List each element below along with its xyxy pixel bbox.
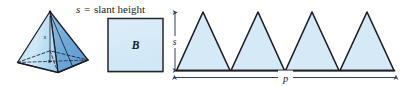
lateral-triangle-2 [231,12,285,71]
perimeter-dimension-label: p [282,73,288,84]
caption-variable: s [76,3,80,15]
lateral-triangle-3 [286,12,340,71]
slant-height-caption: s = slant height [76,3,145,15]
square-pyramid-solid: s [18,11,89,73]
slant-height-dimension-label: s [173,37,177,47]
lateral-triangles-group [177,12,395,71]
pyramid-slant-label: s [44,33,47,41]
slant-height-dimension: s [169,13,180,71]
geometry-figure-surface-area-pyramid: s s = slant height B s [0,0,404,86]
perimeter-dimension: p [175,71,397,84]
figure-canvas: s s = slant height B s [0,0,404,86]
lateral-triangle-1 [177,12,231,71]
base-square-group: B [108,19,163,73]
caption-definition: slant height [94,3,145,15]
lateral-triangle-4 [340,12,394,71]
pyramid-apex-point [49,11,51,13]
base-square-label: B [131,39,140,51]
caption-equals: = [84,3,90,15]
